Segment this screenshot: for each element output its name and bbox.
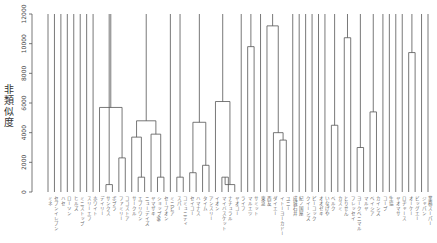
leaf-label: イオン [214,196,219,211]
leaf-label: とりせん [343,196,348,216]
leaf-label: ピーコック [311,196,316,221]
y-tick-label: 12000 [20,4,27,23]
leaf-label: ヨークベニマル [356,196,361,231]
dendrogram-chart: 020004000600080001000012000ミネセブンイレブンハセロー… [0,0,437,243]
leaf-label: 業務スーパー [427,195,432,226]
leaf-label: カスミ [337,196,342,211]
leaf-label: ヤオコー [234,196,239,216]
leaf-label: ロヂャース [401,196,406,221]
leaf-label: ヤオマサ [395,196,400,217]
leaf-label: ベイシア [369,196,374,216]
leaf-label: ショップ99 [156,196,161,222]
leaf-label: マイバスケット [221,196,226,231]
leaf-label: 東急 [260,195,265,206]
leaf-label: いなげや [324,196,329,217]
leaf-label: イトーヨーカドー [279,196,284,236]
leaf-label: ニューデイズ [144,196,149,226]
leaf-label: ヒルズ [73,196,78,211]
leaf-label: ナチュラル [227,196,232,221]
leaf-label: ユニー [285,196,290,211]
leaf-label: カインズ [375,196,380,216]
y-tick-label: 8000 [20,66,27,81]
leaf-label: ダイエー [272,195,277,216]
leaf-label: コミュニティ [182,196,187,226]
leaf-label: ハセ [60,196,65,206]
leaf-label: オーケー [408,196,413,216]
leaf-label: フレッセイ [350,196,355,221]
leaf-label: マルエツ [247,196,252,216]
leaf-label: オオゼキ [318,196,323,216]
y-tick-label: 4000 [20,125,27,140]
leaf-label: ビッグエー [414,195,419,221]
leaf-label: アンスリー [208,196,213,221]
y-tick-label: 2000 [20,155,27,170]
leaf-label: セイコー [189,196,194,216]
leaf-label: 成城石井 [292,195,297,217]
leaf-label: ホワイト [92,196,97,216]
leaf-label: ポプラ [111,196,116,211]
leaf-label: ライフ [240,196,245,211]
leaf-label: セブンイレブン [53,196,58,231]
leaf-label: ミニストップ [79,196,84,226]
leaf-label: 生協 [388,195,393,207]
leaf-label: コープ [382,196,387,211]
leaf-label: スリーエフ [86,196,91,221]
y-tick-label: 6000 [20,95,27,110]
leaf-label: ジャパン [421,196,426,216]
leaf-label: ファミリー [118,196,123,221]
y-tick-label: 0 [20,190,27,194]
leaf-label: セーブオン [163,196,168,221]
leaf-label: 西友 [266,196,271,207]
leaf-label: ヤマザキ [150,196,155,216]
leaf-label: ココストア [124,196,129,221]
leaf-label: クイーンズ [305,196,310,221]
leaf-label: マルヤ [363,196,368,211]
leaf-label: 紀ノ国屋 [298,195,303,217]
leaf-label: デイリー [99,195,104,216]
leaf-label: ローソン [66,196,71,216]
leaf-label: ベルク [330,196,335,211]
leaf-label: サンクス [105,196,110,216]
leaf-label: サークル [131,196,136,216]
leaf-label: タイム [202,196,207,211]
leaf-label: エブリワン [137,196,142,221]
leaf-label: ハマナス [195,196,200,216]
y-tick-label: 10000 [20,34,27,53]
y-axis-label: 非類似度 [4,84,18,128]
leaf-label: ミネ [47,196,52,206]
leaf-label: サミット [253,196,258,216]
leaf-label: スパー [176,196,181,211]
leaf-label: ミニピア [169,196,174,216]
